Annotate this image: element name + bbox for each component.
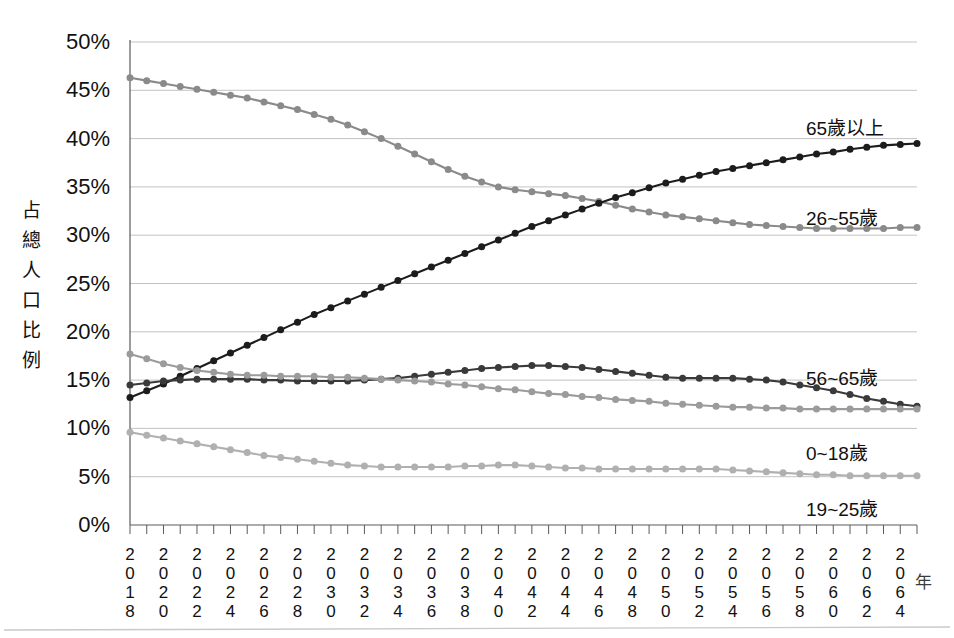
series-marker xyxy=(244,372,251,379)
series-marker xyxy=(277,326,284,333)
y-tick-label: 30% xyxy=(46,222,110,248)
series-marker xyxy=(880,142,887,149)
series-marker xyxy=(512,186,519,193)
x-tick-label: 2038 xyxy=(457,545,473,621)
series-marker xyxy=(177,437,184,444)
series-marker xyxy=(411,378,418,385)
series-marker xyxy=(378,464,385,471)
series-marker xyxy=(528,223,535,230)
series-marker xyxy=(311,311,318,318)
series-marker xyxy=(713,465,720,472)
series-marker xyxy=(579,364,586,371)
series-marker xyxy=(394,464,401,471)
series-marker xyxy=(244,449,251,456)
series-marker xyxy=(897,406,904,413)
series-marker xyxy=(361,128,368,135)
series-marker xyxy=(127,381,134,388)
series-marker xyxy=(143,432,150,439)
series-marker xyxy=(428,371,435,378)
series-marker xyxy=(830,406,837,413)
series-marker xyxy=(495,462,502,469)
series-marker xyxy=(445,369,452,376)
series-marker xyxy=(244,95,251,102)
x-tick-label: 2022 xyxy=(189,545,205,621)
series-marker xyxy=(361,291,368,298)
series-marker xyxy=(914,406,921,413)
series-marker xyxy=(796,470,803,477)
series-marker xyxy=(344,462,351,469)
series-marker xyxy=(512,363,519,370)
series-marker xyxy=(679,401,686,408)
series-marker xyxy=(763,377,770,384)
series-marker xyxy=(746,404,753,411)
series-marker xyxy=(629,465,636,472)
series-marker xyxy=(277,102,284,109)
series-marker xyxy=(713,375,720,382)
series-marker xyxy=(746,162,753,169)
series-marker xyxy=(512,462,519,469)
y-tick-label: 0% xyxy=(46,512,110,538)
series-marker xyxy=(545,464,552,471)
series-marker xyxy=(210,89,217,96)
series-marker xyxy=(127,74,134,81)
series-marker xyxy=(679,375,686,382)
series-marker xyxy=(880,406,887,413)
series-marker xyxy=(863,144,870,151)
series-marker xyxy=(796,406,803,413)
series-label-2: 56~65歲 xyxy=(806,363,878,390)
series-marker xyxy=(780,156,787,163)
series-marker xyxy=(646,372,653,379)
series-marker xyxy=(294,319,301,326)
series-marker xyxy=(847,406,854,413)
x-tick-label: 2056 xyxy=(758,545,774,621)
series-marker xyxy=(763,468,770,475)
series-marker xyxy=(394,277,401,284)
x-tick-label: 2050 xyxy=(658,545,674,621)
series-marker xyxy=(495,183,502,190)
series-marker xyxy=(579,195,586,202)
series-marker xyxy=(210,369,217,376)
series-marker xyxy=(796,224,803,231)
series-marker xyxy=(763,405,770,412)
x-tick-label: 2062 xyxy=(859,545,875,621)
series-marker xyxy=(445,257,452,264)
series-marker xyxy=(763,159,770,166)
series-marker xyxy=(428,264,435,271)
series-marker xyxy=(612,465,619,472)
series-marker xyxy=(813,151,820,158)
series-marker xyxy=(143,387,150,394)
x-tick-label: 2042 xyxy=(524,545,540,621)
series-marker xyxy=(478,463,485,470)
series-marker xyxy=(763,222,770,229)
series-marker xyxy=(662,374,669,381)
series-marker xyxy=(847,391,854,398)
series-marker xyxy=(545,390,552,397)
series-marker xyxy=(277,373,284,380)
series-marker xyxy=(796,381,803,388)
series-marker xyxy=(729,165,736,172)
series-marker xyxy=(528,463,535,470)
series-marker xyxy=(428,158,435,165)
series-label-3: 0~18歲 xyxy=(806,438,868,465)
x-tick-label: 2036 xyxy=(423,545,439,621)
series-marker xyxy=(713,217,720,224)
series-marker xyxy=(160,80,167,87)
series-marker xyxy=(562,465,569,472)
series-marker xyxy=(562,192,569,199)
series-marker xyxy=(327,304,334,311)
series-marker xyxy=(746,221,753,228)
series-marker xyxy=(177,83,184,90)
x-tick-label: 2024 xyxy=(222,545,238,621)
series-marker xyxy=(830,471,837,478)
plot-area xyxy=(0,0,954,638)
series-marker xyxy=(160,435,167,442)
series-marker xyxy=(260,372,267,379)
series-marker xyxy=(411,270,418,277)
x-tick-label: 2046 xyxy=(591,545,607,621)
series-marker xyxy=(696,375,703,382)
series-marker xyxy=(378,376,385,383)
series-line-1 xyxy=(130,143,917,397)
x-tick-label: 2048 xyxy=(624,545,640,621)
series-marker xyxy=(143,355,150,362)
series-marker xyxy=(445,380,452,387)
